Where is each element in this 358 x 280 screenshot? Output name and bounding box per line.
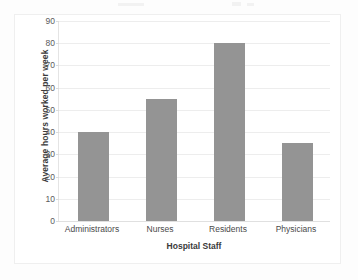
bar-administrators — [78, 132, 109, 221]
chart-plot-frame: Average hours worked per week 9080706050… — [14, 14, 341, 264]
y-tick-label: 90 — [29, 16, 55, 26]
x-axis-title: Hospital Staff — [58, 241, 330, 251]
y-tick-label: 40 — [29, 127, 55, 137]
bar-physicians — [282, 143, 313, 221]
x-tick-label: Administrators — [65, 224, 119, 234]
x-axis-tick-labels: AdministratorsNursesResidentsPhysicians — [58, 224, 330, 240]
bars-layer — [59, 21, 330, 221]
y-tick-label: 70 — [29, 60, 55, 70]
bar-chart-figure: Average hours worked per week 9080706050… — [0, 0, 358, 280]
scan-artifact — [118, 3, 144, 6]
y-tick-label: 0 — [29, 216, 55, 226]
gridline — [59, 221, 330, 222]
y-tick-label: 50 — [29, 105, 55, 115]
plot-area — [58, 21, 330, 221]
y-tick-label: 30 — [29, 149, 55, 159]
scan-artifact — [247, 3, 254, 6]
y-tick-label: 80 — [29, 38, 55, 48]
y-tick-label: 60 — [29, 83, 55, 93]
y-axis-tick-labels: 9080706050403020100 — [29, 21, 55, 221]
x-tick-label: Physicians — [276, 224, 317, 234]
bar-residents — [214, 43, 245, 221]
x-tick-label: Nurses — [147, 224, 174, 234]
y-tick-mark — [56, 221, 59, 222]
y-tick-label: 20 — [29, 172, 55, 182]
x-tick-label: Residents — [209, 224, 247, 234]
scan-artifact — [232, 2, 241, 6]
bar-nurses — [146, 99, 177, 221]
y-tick-label: 10 — [29, 194, 55, 204]
